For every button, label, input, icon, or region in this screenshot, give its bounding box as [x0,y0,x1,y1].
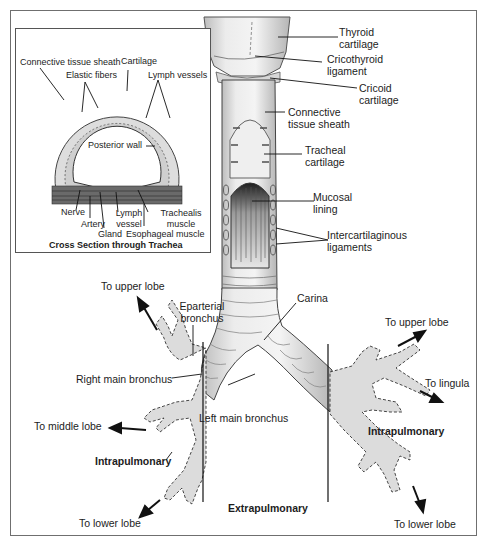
label-left-main-bronchus: Left main bronchus [199,412,288,424]
label-inset-posterior-wall: Posterior wall [88,140,142,151]
label-right-to-middle-lobe: To middle lobe [34,420,102,432]
label-left-intrapulmonary: Intrapulmonary [368,425,444,437]
inset-caption: Cross Section through Trachea [49,240,183,251]
label-inset-nerve: Nerve [61,207,85,218]
label-left-to-lower-lobe: To lower lobe [394,518,456,530]
label-left-to-upper-lobe: To upper lobe [385,316,449,328]
label-thyroid-cartilage: Thyroid cartilage [339,26,399,50]
label-intercartilaginous-ligaments: Intercartilaginous ligaments [327,229,417,253]
label-inset-lymph-vessel: Lymph vessel [112,208,146,229]
label-connective-tissue-sheath: Connective tissue sheath [288,106,368,130]
label-inset-gland: Gland [98,229,122,240]
thyroid-cartilage-shape [204,17,290,76]
label-cricoid-cartilage: Cricoid cartilage [359,82,419,106]
label-inset-elastic-fibers: Elastic fibers [66,70,117,81]
label-extrapulmonary: Extrapulmonary [228,502,308,514]
label-right-to-lower-lobe: To lower lobe [79,517,141,529]
label-inset-esophageal-muscle: Esophageal muscle [126,229,205,240]
label-inset-connective-tissue-sheath: Connective tissue sheath [20,57,121,68]
label-inset-trachealis-muscle: Trachealis muscle [156,208,206,229]
label-left-to-lingula: To lingula [425,377,469,389]
label-eparterial-bronchus: Eparterial bronchus [176,300,228,324]
label-inset-artery: Artery [81,219,105,230]
label-tracheal-cartilage: Tracheal cartilage [305,144,365,168]
label-right-to-upper-lobe: To upper lobe [101,280,165,292]
left-airway-tree [330,344,430,492]
label-right-main-bronchus: Right main bronchus [76,373,172,385]
label-carina: Carina [297,292,328,304]
label-right-intrapulmonary: Intrapulmonary [95,455,171,467]
label-inset-cartilage: Cartilage [121,56,157,67]
cropped-caption-strip [0,537,480,547]
label-mucosal-lining: Mucosal lining [313,191,373,215]
label-inset-lymph-vessels: Lymph vessels [148,70,207,81]
label-cricothyroid-ligament: Cricothyroid ligament [327,53,391,77]
mucosal-lining-window [231,183,269,268]
